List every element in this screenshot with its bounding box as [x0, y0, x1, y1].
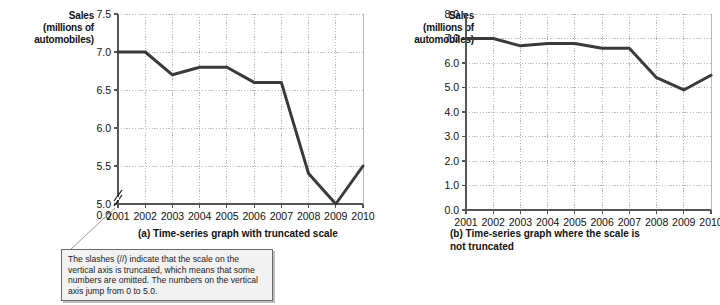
y-axis-tick-label: 8.0 — [444, 8, 459, 20]
truncation-callout-text: The slashes (//) indicate that the scale… — [68, 254, 258, 296]
x-axis-tick-label: 2005 — [215, 210, 239, 222]
truncation-callout: The slashes (//) indicate that the scale… — [61, 249, 273, 301]
x-axis-tick-label: 2003 — [161, 210, 185, 222]
x-axis-tick-label: 2009 — [324, 210, 348, 222]
y-axis-tick-label: 3.0 — [444, 130, 459, 142]
x-axis-tick-label: 2005 — [563, 216, 587, 228]
chart-b-canvas: 8.07.06.05.04.03.02.01.00.02001200220032… — [380, 0, 720, 260]
y-axis-tick-label: 1.0 — [444, 179, 459, 191]
y-axis-tick-label: 2.0 — [444, 155, 459, 167]
x-axis-tick-label: 2007 — [270, 210, 294, 222]
caption-b: (b) Time-series graph where the scale is… — [450, 228, 665, 253]
chart-a-canvas: 7.57.06.56.05.55.00.02001200220032004200… — [0, 0, 380, 260]
y-axis-tick-label: 5.0 — [444, 81, 459, 93]
y-axis-tick-label: 6.5 — [96, 84, 111, 96]
x-axis-tick-label: 2002 — [134, 210, 158, 222]
y-axis-tick-label: 7.0 — [96, 46, 111, 58]
x-axis-tick-label: 2001 — [454, 216, 478, 228]
x-axis-tick-label: 2006 — [590, 216, 614, 228]
y-axis-tick-label: 5.5 — [96, 160, 111, 172]
figure-b-full-scale: Sales (millions of automobiles) 8.07.06.… — [380, 0, 720, 305]
caption-b-line1: (b) Time-series graph where the scale is — [450, 228, 665, 241]
y-axis-tick-label: 6.0 — [96, 122, 111, 134]
x-axis-tick-label: 2006 — [242, 210, 266, 222]
y-axis-tick-label: 4.0 — [444, 106, 459, 118]
x-axis-tick-label: 2004 — [188, 210, 212, 222]
caption-a: (a) Time-series graph with truncated sca… — [138, 228, 368, 241]
x-axis-tick-label: 2004 — [536, 216, 560, 228]
caption-b-line2: not truncated — [450, 241, 665, 254]
y-axis-tick-label: 7.0 — [444, 32, 459, 44]
x-axis-tick-label: 2008 — [297, 210, 321, 222]
x-axis-tick-label: 2010 — [351, 210, 375, 222]
x-axis-tick-label: 2007 — [618, 216, 642, 228]
x-axis-tick-label: 2008 — [645, 216, 669, 228]
y-axis-tick-label: 0.0 — [444, 204, 459, 216]
x-axis-tick-label: 2002 — [482, 216, 506, 228]
x-axis-tick-label: 2003 — [509, 216, 533, 228]
figure-a-truncated-scale: Sales (millions of automobiles) 7.57.06.… — [0, 0, 380, 305]
x-axis-tick-label: 2009 — [672, 216, 696, 228]
y-axis-tick-label: 6.0 — [444, 57, 459, 69]
y-axis-tick-label: 7.5 — [96, 8, 111, 20]
x-axis-tick-label: 2010 — [699, 216, 720, 228]
data-series-line — [466, 39, 711, 90]
x-axis-tick-label: 2001 — [106, 210, 130, 222]
